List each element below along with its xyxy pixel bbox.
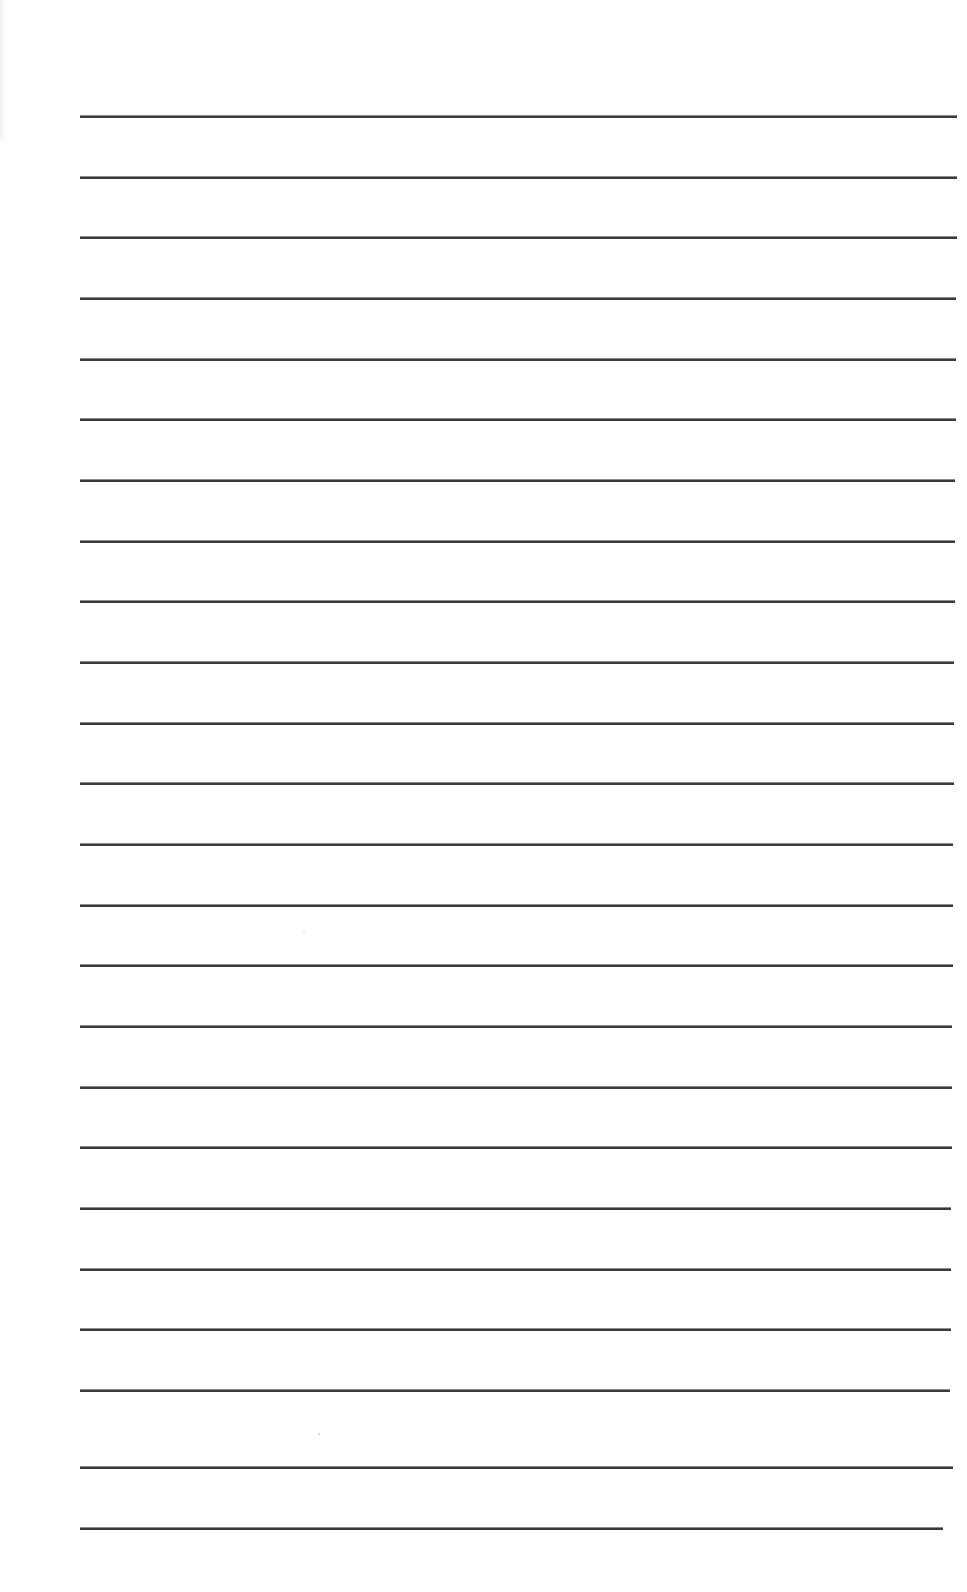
ruled-line — [80, 1025, 952, 1028]
ruled-line — [80, 782, 954, 785]
ruled-line — [80, 722, 954, 725]
lined-paper-page — [0, 0, 967, 1592]
ruled-line — [80, 964, 953, 967]
paper-speck — [303, 930, 305, 932]
ruled-line — [80, 358, 956, 361]
ruled-line — [80, 1086, 952, 1089]
paper-speck — [318, 1433, 320, 1435]
ruled-line — [80, 115, 957, 118]
ruled-line — [80, 479, 955, 482]
ruled-line — [80, 1527, 943, 1530]
ruled-line — [80, 1389, 950, 1392]
ruled-line — [80, 904, 953, 907]
ruled-line — [80, 600, 955, 603]
page-edge-shadow — [0, 0, 6, 140]
ruled-line — [80, 661, 954, 664]
ruled-line — [80, 1268, 951, 1271]
ruled-line — [80, 540, 955, 543]
ruled-line — [80, 1207, 951, 1210]
ruled-line — [80, 1466, 953, 1469]
ruled-line — [80, 843, 953, 846]
ruled-line — [80, 236, 957, 239]
ruled-line — [80, 297, 956, 300]
ruled-line — [80, 1328, 951, 1331]
ruled-line — [80, 1146, 952, 1149]
ruled-line — [80, 176, 957, 179]
ruled-line — [80, 418, 956, 421]
